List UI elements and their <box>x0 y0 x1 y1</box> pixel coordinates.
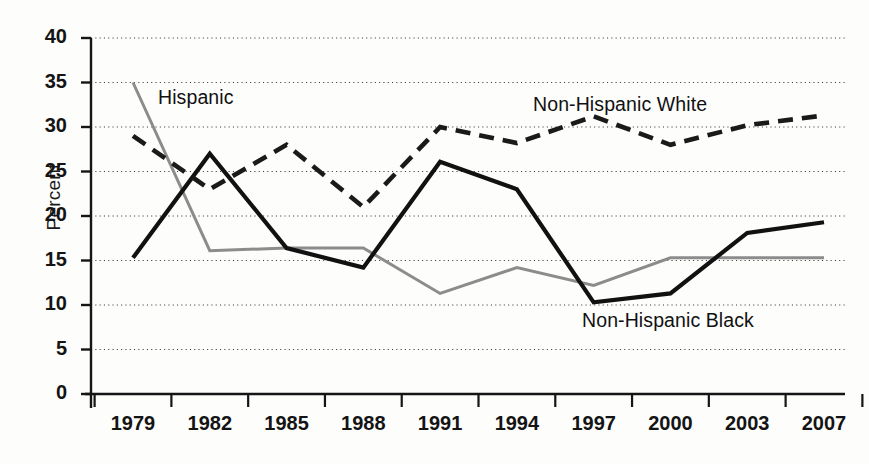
gridlines <box>91 38 845 350</box>
data-series <box>133 83 824 303</box>
plot-area <box>0 0 869 464</box>
axis-lines <box>85 38 845 408</box>
line-chart: Percent 0510152025303540 197919821985198… <box>0 0 869 464</box>
series-line-non-hispanic-white <box>133 115 824 207</box>
